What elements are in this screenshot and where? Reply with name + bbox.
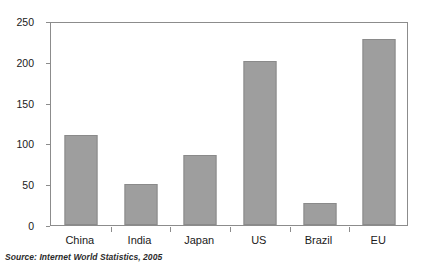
- y-tick-mark-0: [46, 226, 50, 227]
- y-tick-label-250: 250: [16, 17, 34, 27]
- x-tick-label-brazil: Brazil: [305, 234, 333, 247]
- bar-slot-japan: [170, 23, 230, 225]
- bar-india: [124, 184, 157, 225]
- y-tick-label-100: 100: [16, 139, 34, 149]
- y-tick-label-150: 150: [16, 99, 34, 109]
- bar-japan: [184, 155, 217, 225]
- bar-slot-eu: [349, 23, 409, 225]
- x-tick-label-japan: Japan: [184, 234, 214, 247]
- bar-slot-india: [111, 23, 171, 225]
- y-tick-label-0: 0: [28, 221, 34, 231]
- source-caption: Source: Internet World Statistics, 2005: [5, 252, 162, 262]
- bar-chart-figure: 250 200 150 100 50 0: [0, 0, 421, 269]
- x-tick-label-china: China: [65, 234, 94, 247]
- x-category-divider-5: [349, 227, 350, 232]
- x-tick-label-eu: EU: [371, 234, 386, 247]
- x-tick-label-india: India: [128, 234, 152, 247]
- y-axis: 250 200 150 100 50 0: [0, 0, 44, 269]
- bar-eu: [363, 39, 396, 225]
- bar-slot-china: [51, 23, 111, 225]
- y-tick-label-50: 50: [22, 180, 34, 190]
- plot-area: [50, 22, 408, 226]
- x-category-divider-3: [230, 227, 231, 232]
- x-axis: China India Japan US Brazil EU: [50, 234, 408, 250]
- bar-china: [64, 135, 97, 225]
- bar-brazil: [303, 203, 336, 225]
- x-category-divider-1: [111, 227, 112, 232]
- x-category-divider-2: [170, 227, 171, 232]
- bar-slot-brazil: [290, 23, 350, 225]
- y-tick-label-200: 200: [16, 58, 34, 68]
- x-tick-label-us: US: [251, 234, 266, 247]
- bars-container: [51, 23, 407, 225]
- x-category-divider-4: [290, 227, 291, 232]
- bar-us: [243, 61, 276, 225]
- bar-slot-us: [230, 23, 290, 225]
